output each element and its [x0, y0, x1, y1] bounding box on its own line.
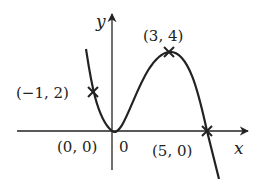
curve-diagram: x y 0 (−1, 2) (0, 0) (3, 4) (5, 0): [0, 0, 269, 179]
point-label: (−1, 2): [16, 84, 69, 102]
point-label: (0, 0): [57, 138, 97, 156]
point-label: (5, 0): [152, 142, 192, 160]
origin-label: 0: [119, 138, 129, 156]
point-label: (3, 4): [143, 27, 183, 45]
x-axis-label: x: [234, 138, 244, 158]
y-axis-label: y: [95, 11, 106, 31]
